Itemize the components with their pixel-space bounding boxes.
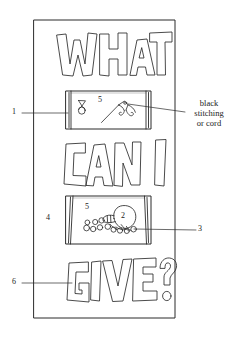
reference-numeral-1: 1: [12, 108, 16, 117]
reference-numeral-2: 2: [121, 212, 125, 221]
patent-figure: 1 5 2 5 4 3 6 black stitching or cord: [0, 0, 236, 338]
banner-backing-outline: [34, 20, 175, 318]
leader-lines: [22, 104, 196, 283]
figure-drawing: [0, 0, 236, 338]
reference-numeral-5-lower: 5: [85, 203, 89, 212]
callout-line-2: stitching: [182, 108, 236, 118]
lower-pocket-panel: [66, 196, 151, 244]
word-give-letters: [67, 258, 177, 302]
coins: [84, 218, 137, 234]
callout-line-1: black: [182, 98, 236, 108]
coin-pouch: [103, 206, 136, 229]
reference-numeral-4: 4: [46, 214, 50, 223]
reference-numeral-3: 3: [198, 225, 202, 234]
callout-line-3: or cord: [182, 118, 236, 128]
word-can-i-letters: [64, 140, 166, 187]
small-pouch: [78, 101, 85, 115]
word-what-letters: [57, 32, 172, 76]
reference-numeral-6: 6: [12, 278, 16, 287]
callout-black-stitching-or-cord: black stitching or cord: [182, 98, 236, 129]
reference-numeral-5-upper: 5: [98, 96, 102, 105]
